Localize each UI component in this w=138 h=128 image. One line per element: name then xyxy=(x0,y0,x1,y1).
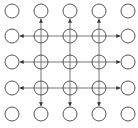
plain-node-icon xyxy=(5,107,19,121)
plain-node-icon xyxy=(92,4,106,18)
plain-node-icon xyxy=(34,4,48,18)
plain-node-icon xyxy=(5,29,19,43)
plain-node-icon xyxy=(92,107,106,121)
grid-diagram xyxy=(0,0,138,128)
plain-node-icon xyxy=(63,4,77,18)
diagram-canvas xyxy=(0,0,138,128)
plain-node-icon xyxy=(121,81,135,95)
plain-node-icon xyxy=(121,55,135,69)
plain-node-icon xyxy=(5,55,19,69)
plain-node-icon xyxy=(121,107,135,121)
plain-node-icon xyxy=(121,29,135,43)
plain-node-icon xyxy=(5,81,19,95)
plain-node-icon xyxy=(5,4,19,18)
plain-node-icon xyxy=(63,107,77,121)
plain-node-icon xyxy=(34,107,48,121)
plain-node-icon xyxy=(121,4,135,18)
